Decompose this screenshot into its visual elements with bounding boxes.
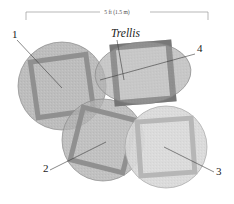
garden-plan-diagram: 5 ft (1.5 m): [0, 0, 234, 204]
dimension-bracket: 5 ft (1.5 m): [26, 9, 208, 20]
diagram-canvas: 5 ft (1.5 m): [0, 0, 234, 204]
dimension-label: 5 ft (1.5 m): [104, 9, 130, 16]
bed-1-label: 1: [12, 28, 18, 40]
bed-3-label: 3: [216, 165, 222, 177]
bed-2-label: 2: [43, 162, 49, 174]
trellis-label: Trellis: [111, 27, 140, 39]
bed-4-ellipse[interactable]: [93, 39, 193, 108]
bed-4-label: 4: [197, 42, 203, 54]
bed-4-group[interactable]: [93, 39, 193, 108]
bed-3-group[interactable]: [125, 106, 207, 188]
